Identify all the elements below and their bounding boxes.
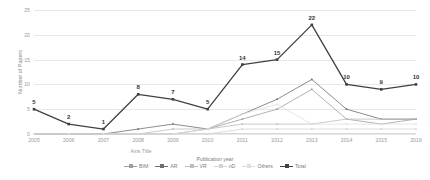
x-axis-tick-label: 2007 [98, 137, 110, 143]
series-marker [380, 118, 382, 120]
x-axis-tick-label: 2006 [63, 137, 75, 143]
data-label: 22 [308, 15, 315, 21]
x-axis-tick-label: 2009 [167, 137, 179, 143]
data-label: 7 [171, 89, 174, 95]
series-marker [241, 63, 244, 66]
legend-item[interactable]: BIM [124, 163, 148, 169]
series-marker [172, 128, 174, 130]
series-marker [207, 128, 209, 130]
x-axis-tick-label: 2010 [202, 137, 214, 143]
series-marker [311, 24, 314, 27]
legend-marker-icon [242, 164, 255, 169]
x-axis-tick-label: 2008 [132, 137, 144, 143]
data-label: 10 [343, 74, 350, 80]
legend-marker-icon [280, 164, 293, 169]
y-axis-title: Number of Papers [17, 50, 23, 94]
series-marker [276, 123, 278, 125]
series-marker [276, 103, 278, 105]
series-marker [345, 83, 348, 86]
data-label: 1 [102, 119, 105, 125]
series-marker [137, 93, 140, 96]
series-marker [311, 123, 313, 125]
legend-label: nD [229, 163, 236, 169]
x-axis-tick-label: 2005 [28, 137, 40, 143]
series-marker [242, 118, 244, 120]
series-marker [415, 123, 417, 125]
y-axis-tick-label: 20 [24, 32, 30, 38]
series-marker [68, 133, 70, 135]
series-marker [380, 88, 383, 91]
series-marker [415, 128, 417, 130]
x-axis-tick-label: 2015 [375, 137, 387, 143]
x-axis-tick-label: 2013 [306, 137, 318, 143]
series-marker [311, 89, 313, 91]
series-marker [276, 108, 278, 110]
series-lines [34, 10, 416, 134]
series-marker [276, 98, 278, 100]
series-marker [242, 113, 244, 115]
series-marker [346, 123, 348, 125]
y-axis-tick-label: 15 [24, 57, 30, 63]
legend-title: Publication year [0, 156, 430, 162]
line-chart: Number of Papers 0510152025 200520062007… [0, 0, 430, 180]
legend-label: AR [170, 163, 177, 169]
legend-item[interactable]: Others [242, 163, 273, 169]
data-label: 8 [137, 84, 140, 90]
y-axis-tick-label: 10 [24, 81, 30, 87]
x-axis-tick-label: 2014 [341, 137, 353, 143]
series-marker [346, 128, 348, 130]
data-label: 2 [67, 114, 70, 120]
series-marker [103, 133, 105, 135]
series-line [34, 25, 416, 129]
legend-items: BIMARVRnDOthersTotal [0, 163, 430, 169]
legend-marker-icon [214, 164, 227, 169]
legend-item[interactable]: AR [155, 163, 177, 169]
x-axis-tick-label: 2012 [271, 137, 283, 143]
series-marker [242, 123, 244, 125]
series-marker [276, 58, 279, 61]
data-label: 5 [206, 99, 209, 105]
legend-item[interactable]: Total [280, 163, 306, 169]
data-label: 5 [32, 99, 35, 105]
y-axis-tick-label: 5 [27, 106, 30, 112]
series-marker [207, 133, 209, 135]
series-marker [172, 123, 174, 125]
legend-marker-icon [155, 164, 168, 169]
series-marker [137, 133, 139, 135]
series-marker [206, 108, 209, 111]
legend-marker-icon [185, 164, 198, 169]
series-marker [276, 128, 278, 130]
legend-item[interactable]: nD [214, 163, 236, 169]
series-marker [172, 133, 174, 135]
data-label: 9 [380, 79, 383, 85]
data-label: 15 [274, 50, 281, 56]
series-marker [33, 108, 36, 111]
plot-area: 0510152025 20052006200720082009201020112… [34, 10, 416, 134]
x-axis-title-container: Axis Title [0, 148, 430, 154]
series-marker [346, 108, 348, 110]
legend-item[interactable]: VR [185, 163, 207, 169]
legend-label: Total [295, 163, 306, 169]
series-marker [346, 118, 348, 120]
data-label: 14 [239, 55, 246, 61]
legend-marker-icon [124, 164, 137, 169]
series-marker [137, 128, 139, 130]
series-marker [311, 79, 313, 81]
legend-label: Others [257, 163, 273, 169]
series-marker [415, 118, 417, 120]
y-axis-tick-label: 25 [24, 7, 30, 13]
series-marker [380, 128, 382, 130]
series-marker [102, 128, 105, 131]
series-marker [242, 128, 244, 130]
series-marker [415, 83, 418, 86]
series-line [34, 129, 416, 134]
legend: Publication year BIMARVRnDOthersTotal [0, 156, 430, 169]
legend-label: BIM [139, 163, 148, 169]
series-marker [311, 128, 313, 130]
series-marker [33, 133, 35, 135]
x-axis-title: Axis Title [131, 148, 152, 154]
series-marker [67, 123, 70, 126]
y-axis-title-container: Number of Papers [0, 10, 14, 134]
series-marker [380, 123, 382, 125]
series-marker [172, 98, 175, 101]
